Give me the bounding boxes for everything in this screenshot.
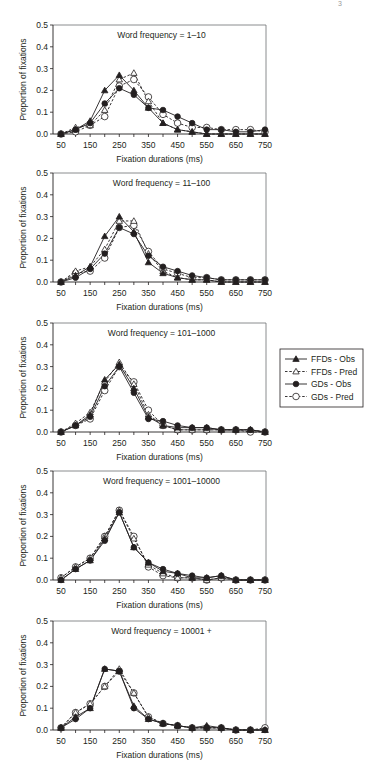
x-axis-label: Fixation durations (ms)	[116, 452, 203, 462]
y-tick-label: 0.3	[36, 212, 48, 222]
panel-4: 0.00.10.20.30.40.55015025035045055065075…	[18, 466, 272, 610]
y-tick-label: 0.2	[36, 531, 48, 541]
x-tick-label: 450	[170, 140, 184, 150]
x-axis-label: Fixation durations (ms)	[116, 154, 203, 164]
y-tick-label: 0.1	[36, 405, 48, 415]
x-tick-label: 350	[141, 586, 155, 596]
data-point-marker	[101, 113, 108, 120]
x-tick-label: 250	[112, 288, 126, 298]
x-tick-label: 350	[141, 438, 155, 448]
panel-2: 0.00.10.20.30.40.55015025035045055065075…	[18, 168, 272, 312]
panel-3: 0.00.10.20.30.40.55015025035045055065075…	[18, 318, 272, 462]
x-tick-label: 50	[56, 736, 66, 746]
open-circle-icon	[293, 393, 300, 400]
figure: 3 0.00.10.20.30.40.550150250350450550650…	[0, 0, 377, 778]
y-tick-label: 0.2	[36, 681, 48, 691]
x-axis-label: Fixation durations (ms)	[116, 750, 203, 760]
y-tick-label: 0.0	[36, 277, 48, 287]
y-tick-label: 0.4	[36, 638, 48, 648]
filled-circle-icon	[293, 381, 299, 387]
x-tick-label: 650	[229, 288, 243, 298]
y-tick-label: 0.3	[36, 64, 48, 74]
data-point-marker	[102, 251, 108, 257]
panel-title: Word frequency = 10001 +	[111, 626, 212, 636]
x-tick-label: 50	[56, 438, 66, 448]
x-tick-label: 150	[83, 586, 97, 596]
y-tick-label: 0.5	[36, 466, 48, 476]
x-tick-label: 50	[56, 288, 66, 298]
data-point-marker	[160, 107, 166, 113]
x-tick-label: 750	[258, 586, 272, 596]
y-axis-label: Proportion of fixations	[18, 634, 28, 716]
y-tick-label: 0.0	[36, 427, 48, 437]
y-axis-label: Proportion of fixations	[18, 186, 28, 268]
y-tick-label: 0.5	[36, 318, 48, 328]
x-tick-label: 350	[141, 736, 155, 746]
x-tick-label: 250	[112, 586, 126, 596]
x-tick-label: 450	[170, 586, 184, 596]
y-tick-label: 0.5	[36, 616, 48, 626]
y-tick-label: 0.0	[36, 725, 48, 735]
x-tick-label: 650	[229, 140, 243, 150]
y-tick-label: 0.3	[36, 660, 48, 670]
legend-label: FFDs - Obs	[311, 354, 355, 364]
y-tick-label: 0.0	[36, 575, 48, 585]
data-point-marker	[102, 107, 108, 113]
y-axis-label: Proportion of fixations	[18, 484, 28, 566]
y-tick-label: 0.4	[36, 190, 48, 200]
x-tick-label: 150	[83, 438, 97, 448]
data-point-marker	[102, 101, 108, 107]
legend-label: GDs - Pred	[311, 392, 354, 402]
x-tick-label: 350	[141, 140, 155, 150]
x-tick-label: 750	[258, 736, 272, 746]
y-tick-label: 0.1	[36, 107, 48, 117]
y-tick-label: 0.1	[36, 703, 48, 713]
y-tick-label: 0.2	[36, 85, 48, 95]
x-tick-label: 250	[112, 140, 126, 150]
x-tick-label: 650	[229, 586, 243, 596]
panel-title: Word frequency = 11–100	[113, 178, 211, 188]
x-tick-label: 550	[200, 438, 214, 448]
y-tick-label: 0.3	[36, 362, 48, 372]
y-axis-label: Proportion of fixations	[18, 336, 28, 418]
y-tick-label: 0.4	[36, 42, 48, 52]
x-tick-label: 50	[56, 586, 66, 596]
x-axis-label: Fixation durations (ms)	[116, 600, 203, 610]
y-tick-label: 0.5	[36, 20, 48, 30]
data-point-marker	[102, 383, 108, 389]
x-tick-label: 750	[258, 140, 272, 150]
x-axis-label: Fixation durations (ms)	[116, 302, 203, 312]
data-point-marker	[116, 72, 122, 78]
x-tick-label: 450	[170, 438, 184, 448]
panel-5: 0.00.10.20.30.40.55015025035045055065075…	[18, 616, 272, 760]
y-tick-label: 0.4	[36, 488, 48, 498]
panel-title: Word frequency = 101–1000	[108, 328, 216, 338]
x-tick-label: 550	[200, 736, 214, 746]
data-point-marker	[146, 253, 152, 259]
x-tick-label: 650	[229, 438, 243, 448]
chart-canvas: 0.00.10.20.30.40.55015025035045055065075…	[0, 0, 377, 778]
y-tick-label: 0.2	[36, 233, 48, 243]
x-tick-label: 350	[141, 288, 155, 298]
data-point-marker	[145, 259, 151, 265]
data-point-marker	[116, 85, 122, 91]
data-point-marker	[189, 120, 195, 126]
data-point-marker	[131, 70, 137, 76]
x-tick-label: 550	[200, 140, 214, 150]
data-point-marker	[116, 213, 122, 219]
x-tick-label: 650	[229, 736, 243, 746]
y-tick-label: 0.0	[36, 129, 48, 139]
legend-label: GDs - Obs	[311, 379, 351, 389]
y-axis-label: Proportion of fixations	[18, 38, 28, 120]
y-tick-label: 0.2	[36, 383, 48, 393]
y-tick-label: 0.3	[36, 510, 48, 520]
x-tick-label: 550	[200, 288, 214, 298]
x-tick-label: 150	[83, 288, 97, 298]
x-tick-label: 750	[258, 288, 272, 298]
x-tick-label: 150	[83, 140, 97, 150]
y-tick-label: 0.4	[36, 340, 48, 350]
data-point-marker	[174, 126, 180, 132]
panel-title: Word frequency = 1–10	[117, 30, 206, 40]
x-tick-label: 550	[200, 586, 214, 596]
data-point-marker	[160, 264, 166, 270]
